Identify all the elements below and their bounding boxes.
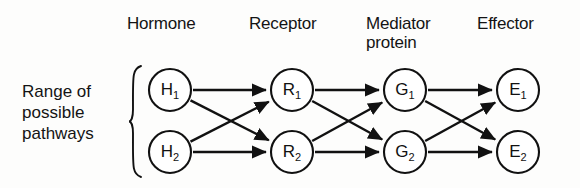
node-circle-g2 — [384, 131, 426, 173]
edge-g1-to-e2 — [425, 101, 495, 139]
node-circle-r2 — [271, 131, 313, 173]
node-circle-h2 — [149, 131, 191, 173]
pathway-graph — [0, 0, 580, 188]
node-circle-h1 — [149, 69, 191, 111]
node-circle-e1 — [497, 69, 539, 111]
edge-h2-to-r1 — [191, 102, 269, 142]
node-circle-e2 — [497, 131, 539, 173]
edge-r2-to-g1 — [312, 103, 382, 141]
node-circle-r1 — [271, 69, 313, 111]
brace-path — [129, 66, 141, 177]
edge-layer — [191, 90, 496, 152]
range-brace-icon — [129, 66, 141, 177]
edge-h1-to-r2 — [191, 100, 269, 140]
edge-g2-to-e1 — [425, 103, 495, 141]
node-circle-g1 — [384, 69, 426, 111]
node-layer — [149, 69, 539, 173]
pathway-diagram: Hormone Receptor Mediator protein Effect… — [0, 0, 580, 188]
edge-r1-to-g2 — [312, 101, 382, 139]
